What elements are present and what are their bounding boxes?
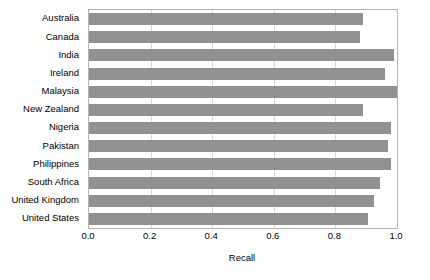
y-axis-tick-label: United Kingdom (0, 191, 84, 209)
bar (89, 140, 388, 152)
bar-row (89, 46, 397, 64)
y-axis-tick-label: Australia (0, 9, 84, 27)
x-axis-tick-label: 0.4 (205, 230, 218, 241)
y-axis-category-labels: AustraliaCanadaIndiaIrelandMalaysiaNew Z… (0, 9, 84, 227)
bar-row (89, 28, 397, 46)
x-axis-tick-label: 1.0 (389, 230, 402, 241)
y-axis-tick-label: New Zealand (0, 100, 84, 118)
x-axis-tick-label: 0.2 (143, 230, 156, 241)
x-axis-title: Recall (88, 252, 396, 263)
y-axis-tick-label: India (0, 45, 84, 63)
bar (89, 13, 363, 25)
bar (89, 31, 360, 43)
bar-row (89, 65, 397, 83)
bar-row (89, 210, 397, 228)
bar-series (89, 10, 397, 228)
y-axis-tick-label: Nigeria (0, 118, 84, 136)
y-axis-tick-label: Ireland (0, 64, 84, 82)
bar (89, 213, 368, 225)
bar (89, 177, 380, 189)
x-axis-tick-labels: 0.00.20.40.60.81.0 (88, 230, 398, 244)
bar (89, 104, 363, 116)
y-axis-tick-label: Malaysia (0, 82, 84, 100)
bar-row (89, 101, 397, 119)
x-axis-tick-label: 0.6 (266, 230, 279, 241)
bar-row (89, 83, 397, 101)
y-axis-tick-label: United States (0, 209, 84, 227)
bar (89, 195, 374, 207)
y-axis-tick-label: Pakistan (0, 136, 84, 154)
bar-row (89, 10, 397, 28)
x-axis-tick-label: 0.8 (328, 230, 341, 241)
bar-row (89, 155, 397, 173)
bar (89, 68, 385, 80)
bar-row (89, 192, 397, 210)
bar (89, 122, 391, 134)
y-axis-tick-label: South Africa (0, 173, 84, 191)
x-axis-tick-label: 0.0 (81, 230, 94, 241)
bar-row (89, 174, 397, 192)
bar (89, 86, 397, 98)
bar-row (89, 137, 397, 155)
bar (89, 158, 391, 170)
y-axis-tick-label: Canada (0, 27, 84, 45)
recall-bar-chart: AustraliaCanadaIndiaIrelandMalaysiaNew Z… (0, 0, 430, 280)
bar (89, 49, 394, 61)
bar-row (89, 119, 397, 137)
y-axis-tick-label: Philippines (0, 154, 84, 172)
plot-area (88, 9, 398, 229)
